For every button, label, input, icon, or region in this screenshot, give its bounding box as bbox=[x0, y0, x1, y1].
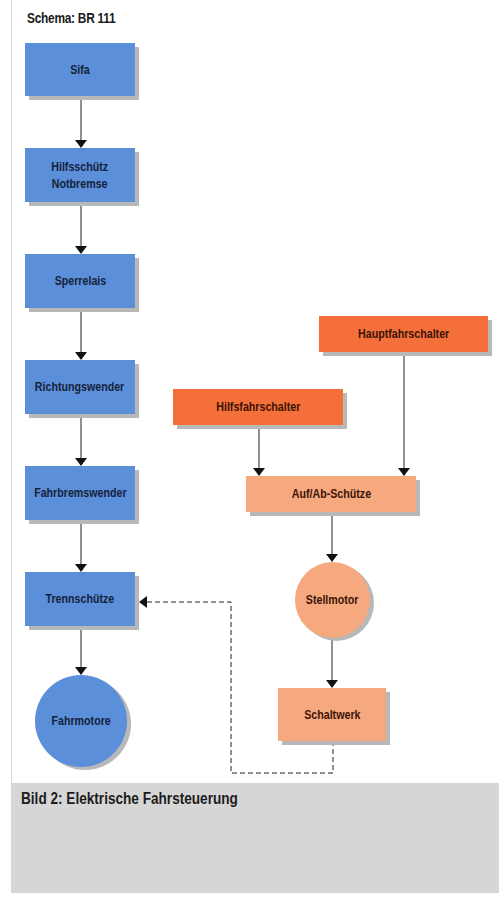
node-label: Hilfsschütz Notbremse bbox=[52, 158, 109, 192]
left-frame-line bbox=[11, 0, 12, 783]
node-trennschuetze: Trennschütze bbox=[25, 572, 135, 626]
node-label: Schaltwerk bbox=[304, 707, 360, 723]
node-fahrmotore: Fahrmotore bbox=[35, 675, 127, 767]
node-auf-ab-schuetze: Auf/Ab-Schütze bbox=[246, 476, 416, 512]
node-label: Hauptfahrschalter bbox=[358, 326, 449, 342]
node-hilfsschuetz-notbremse: Hilfsschütz Notbremse bbox=[25, 148, 135, 202]
node-stellmotor: Stellmotor bbox=[295, 562, 370, 638]
node-label: Trennschütze bbox=[46, 591, 115, 607]
node-label: Stellmotor bbox=[306, 592, 359, 608]
node-label-line1: Hilfsschütz bbox=[52, 158, 109, 175]
node-hauptfahrschalter: Hauptfahrschalter bbox=[319, 316, 488, 352]
node-label: Sperrelais bbox=[54, 273, 106, 289]
schema-title: Schema: BR 111 bbox=[27, 10, 115, 26]
node-label: Sifa bbox=[70, 62, 90, 78]
node-label: Fahrmotore bbox=[51, 713, 110, 729]
node-sperrelais: Sperrelais bbox=[25, 254, 135, 308]
node-label: Hilfsfahrschalter bbox=[216, 399, 300, 415]
node-fahrbremswender: Fahrbremswender bbox=[25, 466, 135, 520]
node-richtungswender: Richtungswender bbox=[25, 360, 135, 414]
node-schaltwerk: Schaltwerk bbox=[278, 688, 386, 741]
node-label: Auf/Ab-Schütze bbox=[291, 486, 370, 502]
node-sifa: Sifa bbox=[25, 43, 135, 96]
node-label-line2: Notbremse bbox=[52, 175, 109, 192]
caption-bar: Bild 2: Elektrische Fahrsteuerung bbox=[11, 783, 499, 893]
node-label: Richtungswender bbox=[35, 379, 124, 395]
node-hilfsfahrschalter: Hilfsfahrschalter bbox=[173, 389, 343, 425]
node-label: Fahrbremswender bbox=[34, 485, 126, 501]
figure-caption: Bild 2: Elektrische Fahrsteuerung bbox=[21, 790, 238, 808]
